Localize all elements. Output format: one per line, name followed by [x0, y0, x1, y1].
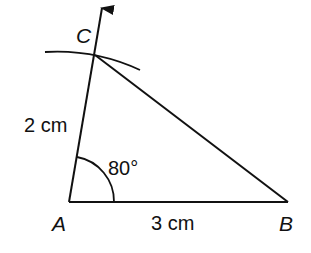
angle-a-measure: 80° [108, 158, 138, 178]
point-label-c: C [76, 25, 91, 46]
side-cb [95, 55, 288, 202]
triangle-diagram: C A B 2 cm 3 cm 80° [0, 0, 311, 253]
point-label-a: A [52, 213, 66, 234]
side-ab-length: 3 cm [151, 213, 194, 233]
point-label-b: B [279, 213, 293, 234]
side-ac-length: 2 cm [24, 115, 67, 135]
